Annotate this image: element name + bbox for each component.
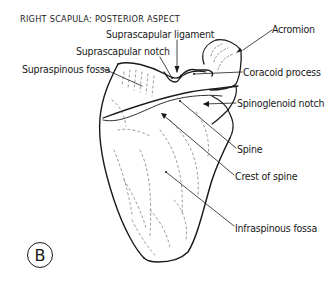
leader-infraspinous-fossa [166,172,234,226]
scapula-diagram: RIGHT SCAPULA: POSTERIOR ASPECT Suprasca… [0,0,330,281]
scapula-outline [118,63,213,78]
scapula-illustration [0,0,330,281]
panel-letter-badge: B [27,242,53,268]
acromion-shape [203,40,242,90]
leader-acromion [243,30,272,50]
spine-upper-edge [103,86,238,118]
lateral-border [144,138,230,262]
medial-border [100,64,144,258]
leader-crest-of-spine [162,114,234,175]
leader-coracoid-process [194,72,242,74]
